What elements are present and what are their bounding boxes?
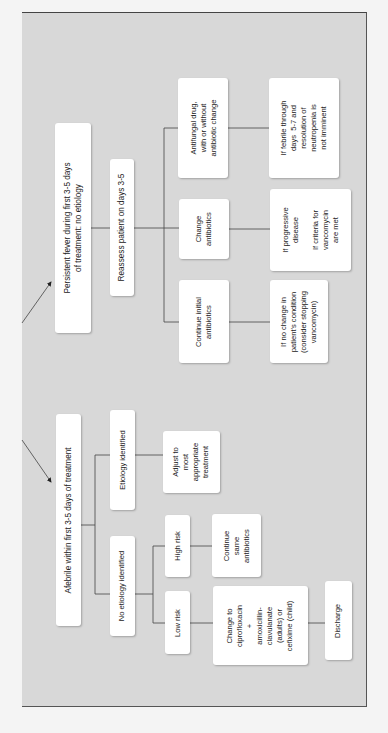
- progressive-condition-label: If progressive disease If criteria for v…: [281, 207, 341, 253]
- afebrile-label: Afebrile within first 3-5 days of treatm…: [63, 447, 74, 593]
- no-change-condition-node: If no change in patient's condition (con…: [270, 280, 328, 363]
- antifungal-label: Antifungal drug, with or without antibio…: [188, 100, 218, 157]
- discharge-label: Discharge: [334, 603, 344, 637]
- change-to-oral-label: Change to ciprofloxacin + amoxicillin- c…: [225, 600, 295, 651]
- adjust-treatment-label: Adjust to most appropriate treatment: [171, 443, 211, 481]
- no-etiology-node: No etiology identified: [110, 536, 135, 636]
- continue-same-node: Continue same antibiotics: [212, 514, 261, 577]
- change-antibiotics-node: Change antibiotics: [179, 199, 229, 259]
- antifungal-node: Antifungal drug, with or without antibio…: [178, 78, 228, 178]
- febrile-condition-label: If febrile through days 5-7 and resoluti…: [279, 101, 329, 156]
- high-risk-node: High risk: [165, 515, 190, 577]
- discharge-node: Discharge: [325, 581, 352, 660]
- change-antibiotics-label: Change antibiotics: [194, 212, 214, 246]
- arrow-to-persistent: [22, 282, 51, 323]
- febrile-condition-node: If febrile through days 5-7 and resoluti…: [269, 78, 339, 178]
- continue-initial-node: Continue initial antibiotics: [179, 280, 229, 363]
- etiology-identified-label: Etiology identified: [118, 430, 128, 490]
- high-risk-label: High risk: [173, 531, 183, 561]
- no-change-condition-label: If no change in patient's condition (con…: [279, 290, 319, 352]
- persistent-fever-node: Persistent fever during first 3-5 days o…: [55, 123, 91, 333]
- continue-same-label: Continue same antibiotics: [222, 529, 252, 563]
- afebrile-node: Afebrile within first 3-5 days of treatm…: [56, 414, 81, 626]
- reassess-label: Reassess patient on days 3-5: [117, 174, 128, 282]
- etiology-identified-node: Etiology identified: [110, 410, 135, 510]
- adjust-treatment-node: Adjust to most appropriate treatment: [163, 431, 220, 493]
- arrow-to-afebrile: [22, 440, 51, 482]
- progressive-condition-node: If progressive disease If criteria for v…: [270, 189, 351, 271]
- continue-initial-label: Continue initial antibiotics: [194, 297, 214, 347]
- persistent-fever-label: Persistent fever during first 3-5 days o…: [62, 162, 84, 293]
- low-risk-node: Low risk: [165, 591, 190, 654]
- change-to-oral-node: Change to ciprofloxacin + amoxicillin- c…: [213, 586, 308, 665]
- low-risk-label: Low risk: [173, 609, 183, 637]
- no-etiology-label: No etiology identified: [118, 551, 128, 622]
- reassess-node: Reassess patient on days 3-5: [110, 159, 134, 296]
